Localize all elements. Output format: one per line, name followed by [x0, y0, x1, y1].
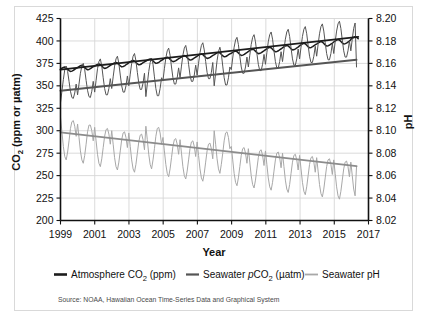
x-tick-label: 2007	[186, 228, 210, 240]
x-axis-tick-labels: 1999200120032005200720092011201320152017	[49, 228, 381, 240]
left-axis-tick-labels: 425400375350325300275250225200	[36, 12, 54, 226]
y-axis-title-units: (ppm or µatm)	[10, 73, 22, 150]
legend-text-pre: Seawater pH	[322, 269, 380, 280]
x-tick-label: 2003	[117, 228, 141, 240]
line-chart: 425400375350325300275250225200 8.208.188…	[0, 0, 427, 322]
right-tick-label: 8.04	[376, 192, 397, 204]
x-tick-label: 2015	[323, 228, 347, 240]
legend-text-pre: Seawater	[203, 269, 248, 280]
legend-text-post: (ppm)	[147, 269, 176, 280]
right-tick-label: 8.18	[376, 35, 397, 47]
left-tick-label: 425	[36, 12, 54, 24]
x-tick-label: 1999	[49, 228, 73, 240]
chart-figure: 425400375350325300275250225200 8.208.188…	[0, 0, 427, 322]
left-tick-label: 300	[36, 124, 54, 136]
x-tick-label: 2009	[220, 228, 244, 240]
right-tick-label: 8.16	[376, 57, 397, 69]
vertical-gridlines	[61, 19, 369, 221]
legend-text-pre: Atmosphere CO	[71, 269, 143, 280]
right-tick-label: 8.14	[376, 79, 397, 91]
left-tick-label: 275	[36, 147, 54, 159]
right-tick-label: 8.12	[376, 102, 397, 114]
right-tick-label: 8.06	[376, 169, 397, 181]
data-series-layer	[61, 21, 359, 199]
right-axis-tick-labels: 8.208.188.168.148.128.108.088.068.048.02	[376, 12, 397, 226]
left-tick-label: 375	[36, 57, 54, 69]
x-tick-label: 2017	[357, 228, 381, 240]
right-axis-title: pH	[402, 115, 414, 130]
x-tick-label: 2005	[151, 228, 175, 240]
left-tick-label: 400	[36, 35, 54, 47]
horizontal-gridlines	[61, 19, 369, 221]
x-tick-label: 2013	[288, 228, 312, 240]
plot-wrapper: 425400375350325300275250225200 8.208.188…	[0, 0, 427, 322]
left-tick-label: 225	[36, 192, 54, 204]
right-tick-label: 8.20	[376, 12, 397, 24]
trendline	[61, 132, 357, 166]
source-caption: Source: NOAA, Hawaiian Ocean Time-Series…	[58, 296, 280, 304]
chart-legend: Atmosphere CO2 (ppm)Seawater pCO2 (µatm)…	[54, 269, 380, 283]
series-line	[61, 117, 357, 199]
legend-label: Seawater pCO2 (µatm)	[203, 269, 305, 283]
right-tick-label: 8.10	[376, 124, 397, 136]
x-tick-label: 2001	[83, 228, 107, 240]
left-tick-label: 250	[36, 169, 54, 181]
x-axis-title: Year	[202, 246, 226, 258]
left-tick-label: 350	[36, 79, 54, 91]
legend-label: Atmosphere CO2 (ppm)	[71, 269, 176, 283]
left-tick-label: 325	[36, 102, 54, 114]
legend-text-mid: CO	[254, 269, 269, 280]
right-tick-label: 8.08	[376, 147, 397, 159]
left-tick-label: 200	[36, 214, 54, 226]
x-tick-label: 2011	[255, 228, 278, 240]
legend-text-post: (µatm)	[273, 269, 305, 280]
right-tick-label: 8.02	[376, 214, 397, 226]
y-axis-title-main: CO	[10, 154, 22, 171]
left-axis-title: CO2 (ppm or µatm)	[10, 73, 25, 171]
legend-label: Seawater pH	[322, 269, 380, 280]
series-line	[61, 21, 357, 103]
